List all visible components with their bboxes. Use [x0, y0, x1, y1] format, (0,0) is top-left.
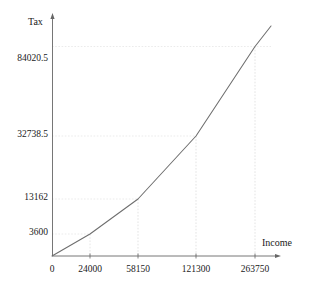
y-tick-label-84020: 84020.5 [0, 53, 48, 63]
x-tick-label-58150: 58150 [114, 264, 162, 274]
vertical-gridlines [90, 47, 255, 257]
y-tick-label-3600: 3600 [0, 227, 48, 237]
x-tick-label-24000: 24000 [66, 264, 114, 274]
x-axis [52, 254, 281, 258]
tax-income-chart: Tax Income 84020.5 32738.5 13162 3600 0 … [0, 0, 313, 287]
tax-curve [52, 26, 271, 256]
x-tick-label-0: 0 [38, 264, 66, 274]
horizontal-gridlines [52, 47, 271, 235]
x-tick-label-121300: 121300 [169, 264, 223, 274]
y-axis-title: Tax [28, 16, 43, 27]
x-tick-label-263750: 263750 [228, 264, 282, 274]
y-axis [50, 13, 54, 256]
y-tick-label-32738: 32738.5 [0, 129, 48, 139]
y-tick-label-13162: 13162 [0, 192, 48, 202]
x-axis-title: Income [262, 237, 292, 248]
